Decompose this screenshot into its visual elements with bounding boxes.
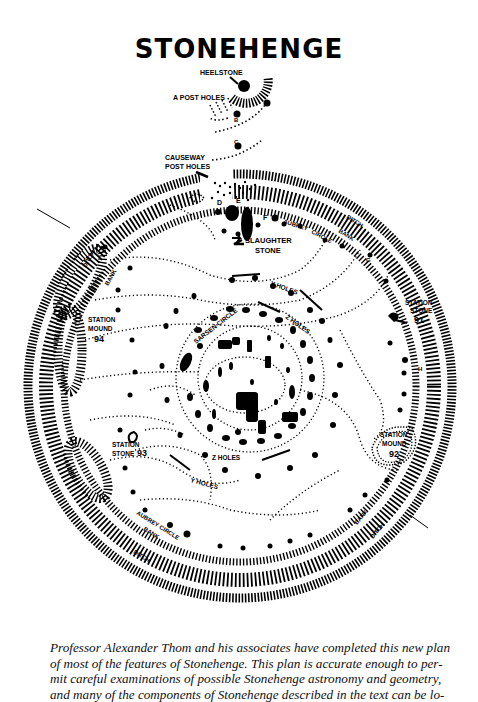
svg-text:MOUND: MOUND (88, 325, 113, 332)
svg-text:POST HOLES: POST HOLES (165, 163, 210, 170)
svg-text:Z HOLES: Z HOLES (284, 313, 312, 335)
svg-text:STATION: STATION (380, 431, 408, 438)
figure-caption: Professor Alexander Thom and his associa… (50, 640, 455, 702)
svg-text:STATION: STATION (88, 316, 116, 323)
caption-line: Professor Alexander Thom and his associa… (50, 640, 455, 656)
svg-text:91: 91 (414, 315, 424, 325)
svg-text:92: 92 (389, 449, 399, 459)
svg-text:STATION: STATION (112, 441, 140, 448)
entrance-gap (200, 168, 232, 205)
svg-text:HEELSTONE: HEELSTONE (200, 69, 243, 76)
svg-text:STONE: STONE (112, 450, 135, 457)
svg-text:CIRCLE: CIRCLE (311, 229, 334, 245)
svg-text:STATION: STATION (405, 299, 433, 306)
heelstone-area (210, 78, 271, 160)
station-markers (129, 312, 416, 465)
heelstone (238, 80, 250, 92)
svg-text:B: B (234, 117, 239, 123)
svg-text:C: C (234, 139, 239, 145)
svg-text:93: 93 (137, 448, 147, 458)
contour-lines (80, 205, 400, 520)
caption-line: of most of the features of Stonehenge. T… (50, 656, 455, 672)
svg-text:E: E (236, 197, 241, 204)
svg-text:A POST HOLES: A POST HOLES (173, 94, 225, 101)
svg-text:D: D (217, 199, 222, 206)
trilithons (197, 335, 298, 435)
svg-text:Z HOLES: Z HOLES (212, 454, 241, 461)
y-holes (160, 275, 344, 479)
svg-text:STONE: STONE (410, 307, 433, 314)
svg-text:H: H (418, 366, 422, 372)
svg-text:Y HOLES: Y HOLES (190, 476, 220, 490)
svg-text:G: G (366, 257, 371, 263)
svg-text:MOUND: MOUND (382, 440, 407, 447)
svg-text:F: F (263, 214, 268, 221)
svg-text:SLAUGHTER: SLAUGHTER (245, 236, 292, 245)
svg-text:94: 94 (94, 334, 104, 344)
svg-text:STONE: STONE (255, 246, 281, 255)
caption-line: mit careful examinations of possible Sto… (50, 671, 455, 687)
svg-text:CAUSEWAY: CAUSEWAY (165, 154, 205, 161)
caption-line: and many of the components of Stonehenge… (50, 687, 455, 702)
